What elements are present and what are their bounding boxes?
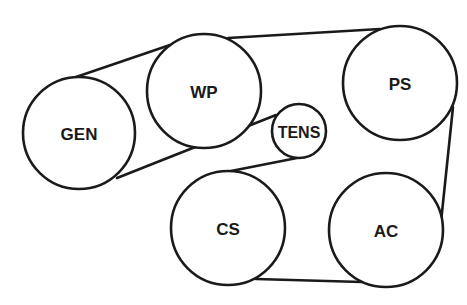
pulley-ps: PS — [343, 26, 457, 140]
belt-segment-cs-tens — [231, 158, 297, 171]
belt-segment-ac-cs — [256, 279, 362, 282]
belt-segment-ps-ac — [441, 107, 453, 222]
pulley-label: PS — [389, 75, 412, 94]
pulley-label: WP — [190, 83, 217, 102]
pulley-ac: AC — [329, 173, 443, 287]
belt-routing-diagram: GENWPTENSPSCSAC — [0, 0, 467, 305]
pulley-label: GEN — [61, 125, 98, 144]
pulley-gen: GEN — [23, 77, 135, 189]
pulleys: GENWPTENSPSCSAC — [23, 26, 457, 287]
pulley-label: TENS — [278, 124, 321, 141]
pulley-label: AC — [374, 222, 399, 241]
pulley-wp: WP — [147, 34, 261, 148]
pulley-tens: TENS — [272, 104, 326, 158]
pulley-label: CS — [216, 220, 240, 239]
pulley-cs: CS — [171, 171, 285, 285]
belt-segment-wp-ps — [228, 29, 380, 38]
